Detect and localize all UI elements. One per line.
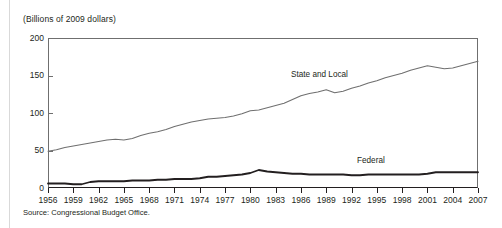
y-axis-tick-mark: [48, 113, 53, 114]
x-axis-tick-label: 1992: [342, 195, 361, 205]
x-axis-tick-mark: [453, 188, 454, 193]
y-axis-tick-mark: [48, 151, 53, 152]
x-axis-tick-mark: [326, 188, 327, 193]
y-axis-units-title: (Billions of 2009 dollars): [23, 14, 116, 25]
x-axis-tick-label: 1983: [266, 195, 285, 205]
x-axis-tick-mark: [402, 188, 403, 193]
x-axis-tick-label: 1980: [241, 195, 260, 205]
source-note: Source: Congressional Budget Office.: [23, 208, 150, 218]
x-axis-tick-label: 1974: [190, 195, 209, 205]
x-axis-tick-mark: [225, 188, 226, 193]
x-axis-tick-mark: [99, 188, 100, 193]
series-label-federal: Federal: [357, 156, 385, 166]
y-axis-tick-mark: [48, 76, 53, 77]
line-federal: [48, 170, 478, 184]
y-axis-tick-label: 50: [35, 146, 44, 155]
x-axis-tick-mark: [200, 188, 201, 193]
x-axis-tick-label: 2007: [469, 195, 488, 205]
series-layer: [48, 38, 478, 188]
x-axis-tick-label: 1962: [89, 195, 108, 205]
x-axis-tick-mark: [124, 188, 125, 193]
x-axis-tick-label: 1968: [140, 195, 159, 205]
x-axis-tick-label: 1986: [291, 195, 310, 205]
x-axis-tick-mark: [301, 188, 302, 193]
x-axis-tick-mark: [427, 188, 428, 193]
plot-area: [48, 38, 478, 188]
x-axis-tick-mark: [174, 188, 175, 193]
line-state-and-local: [48, 61, 478, 151]
page-edge-rule: [9, 0, 10, 228]
x-axis-tick-label: 1971: [165, 195, 184, 205]
figure-container: (Billions of 2009 dollars) 050100150200 …: [0, 0, 502, 228]
y-axis-tick-label: 150: [30, 71, 44, 80]
y-axis-tick-label: 0: [39, 184, 44, 193]
y-axis-tick-labels: 050100150200: [18, 38, 44, 188]
x-axis-tick-label: 1977: [216, 195, 235, 205]
x-axis-tick-mark: [250, 188, 251, 193]
x-axis-tick-label: 1956: [39, 195, 58, 205]
y-axis-tick-label: 200: [30, 34, 44, 43]
x-axis-tick-mark: [149, 188, 150, 193]
x-axis-tick-label: 1995: [367, 195, 386, 205]
x-axis-tick-mark: [478, 188, 479, 193]
series-label-state-and-local: State and Local: [291, 70, 348, 80]
x-axis-tick-mark: [48, 188, 49, 193]
y-axis-tick-label: 100: [30, 109, 44, 118]
x-axis-tick-label: 1989: [317, 195, 336, 205]
x-axis-tick-label: 2001: [418, 195, 437, 205]
x-axis-tick-mark: [377, 188, 378, 193]
x-axis-tick-mark: [73, 188, 74, 193]
x-axis-tick-mark: [352, 188, 353, 193]
x-axis-tick-label: 1998: [393, 195, 412, 205]
x-axis-tick-label: 1959: [64, 195, 83, 205]
x-axis-tick-label: 1965: [114, 195, 133, 205]
x-axis-tick-mark: [276, 188, 277, 193]
x-axis-tick-label: 2004: [443, 195, 462, 205]
